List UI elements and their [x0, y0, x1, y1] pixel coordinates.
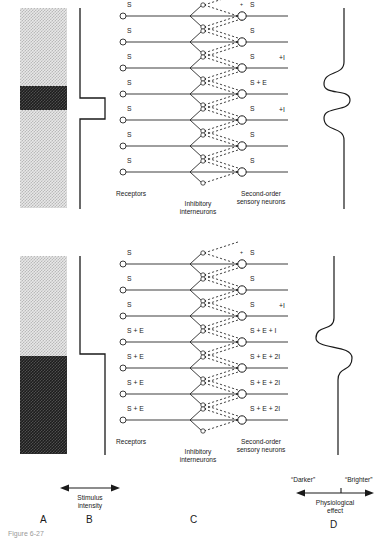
- receptor-input-label: S: [127, 301, 132, 308]
- interneurons-label-line1: Inhibitory: [185, 448, 212, 455]
- inhibitory-sign: −: [240, 17, 243, 23]
- arrowhead-right: [365, 490, 374, 497]
- stimulus-segment-dark-band: [20, 86, 67, 110]
- physiological-effect-line2: effect: [327, 507, 343, 514]
- inhibition-annotation: +I: [279, 54, 285, 61]
- physiological-effect-line1: Physiological: [316, 499, 354, 506]
- figure-lateral-inhibition: S S S S S S S S S S S + E S S S +I +I + …: [0, 0, 391, 539]
- second-order-output-label: S: [250, 131, 255, 138]
- second-order-soma: [238, 12, 246, 176]
- inhibition-annotation: +I: [279, 106, 285, 113]
- panel-letter-c: C: [190, 514, 197, 525]
- darker-label: “Darker”: [291, 476, 315, 484]
- inhibitory-fibres: [204, 242, 238, 431]
- arrowhead-right: [111, 485, 120, 492]
- stimulus-intensity-label: Stimulus intensity: [50, 494, 130, 510]
- second-order-label-line1: Second-order: [241, 438, 281, 445]
- stimulus-profile-path-bottom: [80, 256, 105, 455]
- interneurons-label-line1: Inhibitory: [185, 200, 212, 207]
- second-order-label-line2: sensory neurons: [237, 446, 286, 453]
- receptor-soma: [120, 261, 126, 423]
- response-curve-bottom: [308, 254, 384, 457]
- inhibitory-fibres: [204, 0, 238, 183]
- stimulus-bar-bottom: [20, 256, 67, 454]
- arrowhead-left: [60, 485, 69, 492]
- stimulus-profile-top: [75, 6, 115, 211]
- receptor-input-label: S: [127, 105, 132, 112]
- receptor-input-label: S: [127, 53, 132, 60]
- neural-network-bottom: [118, 252, 288, 442]
- receptor-input-label: S + E: [127, 353, 144, 360]
- inhibition-annotation: +I: [279, 302, 285, 309]
- receptor-input-label: S: [127, 1, 132, 8]
- receptor-input-label: S: [127, 131, 132, 138]
- interneurons-label-line2: interneurons: [180, 456, 217, 463]
- neural-network-top: [118, 4, 288, 194]
- receptors-label: Receptors: [116, 438, 146, 446]
- second-order-output-label: S: [250, 1, 255, 8]
- figure-caption: Figure 6-27: [8, 530, 44, 537]
- second-order-output-label: S + E: [250, 79, 267, 86]
- receptor-input-label: S: [127, 79, 132, 86]
- panel-letter-d: D: [330, 519, 337, 530]
- stimulus-intensity-axis: [58, 482, 122, 494]
- excitatory-sign: +: [240, 1, 243, 7]
- stimulus-intensity-line1: Stimulus: [77, 494, 102, 501]
- receptors-label: Receptors: [116, 190, 146, 198]
- stimulus-segment-light: [20, 256, 67, 356]
- receptor-input-label: S + E: [127, 327, 144, 334]
- second-order-output-label: S: [250, 53, 255, 60]
- response-curve-path-bottom: [316, 256, 352, 455]
- second-order-label: Second-order sensory neurons: [218, 438, 304, 454]
- interneurons-label-line2: interneurons: [180, 208, 217, 215]
- receptor-input-label: S + E: [127, 405, 144, 412]
- second-order-output-label: S + E + 2I: [250, 353, 280, 360]
- second-order-output-label: S + E + I: [250, 327, 276, 334]
- stimulus-bar-top: [20, 8, 67, 208]
- response-curve-top: [308, 6, 384, 211]
- physiological-effect-axis: [294, 487, 376, 499]
- receptor-input-label: S: [127, 249, 132, 256]
- second-order-output-label: S: [250, 275, 255, 282]
- inhibitory-sign: −: [240, 265, 243, 271]
- second-order-output-label: S: [250, 249, 255, 256]
- brighter-label: “Brighter”: [345, 476, 372, 484]
- second-order-label: Second-order sensory neurons: [218, 190, 304, 206]
- panel-letter-a: A: [40, 514, 47, 525]
- excitatory-sign: +: [240, 249, 243, 255]
- stimulus-profile-bottom: [75, 254, 115, 457]
- second-order-label-line1: Second-order: [241, 190, 281, 197]
- second-order-soma: [238, 260, 246, 424]
- stimulus-segment-light-lower: [20, 110, 67, 208]
- second-order-output-label: S: [250, 105, 255, 112]
- second-order-output-label: S: [250, 157, 255, 164]
- stimulus-intensity-line2: intensity: [78, 502, 102, 509]
- second-order-output-label: S: [250, 301, 255, 308]
- stimulus-profile-path-top: [80, 8, 105, 209]
- response-curve-path-top: [324, 8, 350, 209]
- physiological-effect-label: Physiological effect: [288, 499, 382, 515]
- receptor-input-label: S: [127, 157, 132, 164]
- receptor-input-label: S: [127, 27, 132, 34]
- receptor-input-label: S + E: [127, 379, 144, 386]
- panel-letter-b: B: [86, 514, 93, 525]
- stimulus-segment-dark: [20, 356, 67, 454]
- second-order-output-label: S + E + 2I: [250, 405, 280, 412]
- second-order-output-label: S: [250, 27, 255, 34]
- second-order-label-line2: sensory neurons: [237, 198, 286, 205]
- second-order-output-label: S + E + 2I: [250, 379, 280, 386]
- receptor-input-label: S: [127, 275, 132, 282]
- stimulus-segment-light-upper: [20, 8, 67, 86]
- receptor-soma: [120, 13, 126, 175]
- arrowhead-left: [296, 490, 305, 497]
